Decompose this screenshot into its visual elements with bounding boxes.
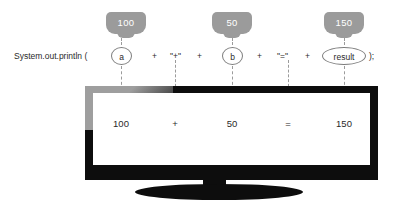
- illustration-canvas: 100 50 150 System.out.println ( a + "+" …: [0, 0, 394, 209]
- code-operator-plus-1: +: [152, 45, 157, 67]
- code-operator-plus-3: +: [257, 45, 262, 67]
- output-value-b: 50: [212, 117, 252, 131]
- badge-value-result-label: 150: [336, 17, 353, 28]
- code-operator-plus-4: +: [305, 45, 310, 67]
- badge-value-result: 150: [324, 12, 364, 34]
- monitor-stand-base: [135, 184, 303, 200]
- code-prefix: System.out.println (: [14, 45, 87, 67]
- connector-result-upper: [344, 34, 345, 45]
- code-operator-plus-2: +: [197, 45, 202, 67]
- code-literal-equals: "=": [277, 45, 288, 67]
- badge-value-a: 100: [106, 12, 146, 34]
- connector-a-upper: [121, 34, 122, 45]
- badge-value-a-label: 100: [118, 17, 135, 28]
- code-statement: System.out.println ( a + "+" + b + "=" +…: [0, 45, 394, 67]
- code-suffix: );: [369, 45, 374, 67]
- output-value-result: 150: [324, 117, 364, 131]
- badge-value-b: 50: [212, 12, 252, 34]
- output-operator-plus: +: [155, 117, 195, 131]
- code-variable-b: b: [222, 47, 243, 65]
- connector-b-upper: [232, 34, 233, 45]
- output-value-a: 100: [101, 117, 141, 131]
- monitor-bezel: [85, 86, 378, 180]
- code-variable-a: a: [111, 47, 132, 65]
- output-operator-equals: =: [268, 117, 308, 131]
- badge-value-b-label: 50: [226, 17, 237, 28]
- code-variable-result: result: [322, 47, 366, 65]
